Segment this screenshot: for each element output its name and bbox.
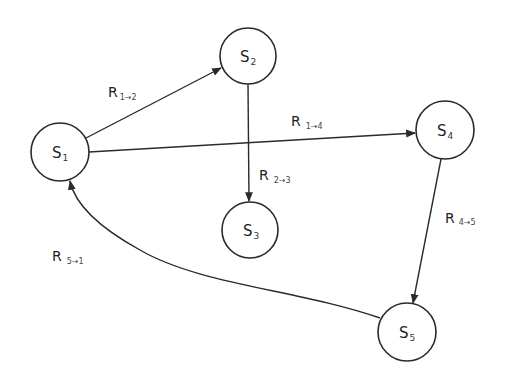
edge-label-r12: R1→2: [108, 84, 137, 102]
edge-label-r45: R4→5: [445, 210, 476, 227]
edge-s1-to-s2: [86, 68, 221, 138]
edge-label-r14: R1→4: [291, 113, 323, 131]
edge-label-r51: R5→1: [52, 248, 84, 266]
node-s1: S1: [31, 123, 89, 181]
node-s3: S3: [222, 202, 278, 258]
edges: [70, 68, 441, 318]
edge-s5-to-s1: [70, 181, 380, 318]
node-s5: S5: [378, 303, 436, 361]
node-s2: S2: [220, 28, 276, 84]
edge-s4-to-s5: [413, 159, 441, 303]
node-s4: S4: [416, 101, 474, 159]
edge-label-r23: R2→3: [259, 167, 291, 185]
edge-s2-to-s3: [248, 84, 249, 201]
edge-s1-to-s4: [89, 133, 415, 152]
state-diagram: R1→2 R1→4 R2→3 R4→5 R5→1 S1 S2 S3 S4 S5: [0, 0, 505, 376]
